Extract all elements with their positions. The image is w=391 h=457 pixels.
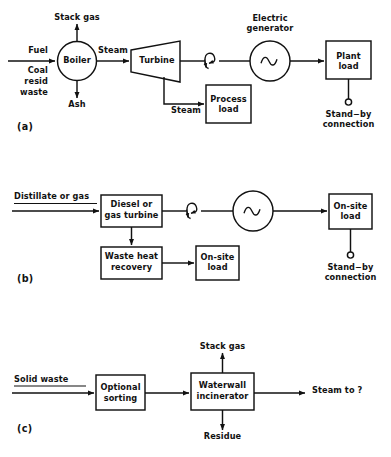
waste-heat-recovery-label-line-1: Waste heat: [105, 252, 158, 262]
optional-sorting-label-line-1: Optional: [100, 383, 140, 393]
waterwall-incinerator-label-line-1: Waterwall: [199, 381, 246, 391]
shaft-rotation-icon-b: [187, 203, 197, 218]
diesel-or-gas-turbine-label-line-2: gas turbine: [104, 211, 158, 221]
on-site-load-electric-label-line-2: load: [340, 212, 360, 222]
turbine-label: Turbine: [139, 56, 174, 66]
panel-tag-a: (a): [17, 122, 33, 132]
ash-label: Ash: [68, 100, 85, 110]
steam-to-turbine-label: Steam: [98, 46, 128, 56]
stand-by-connection-b: [347, 229, 353, 258]
steam-to-process-path: [164, 77, 204, 104]
plant-load-label-line-2: load: [338, 62, 358, 72]
stand-by-connection-b-label-line-2: connection: [325, 273, 377, 283]
fuel-detail-line-2: resid: [24, 77, 48, 87]
process-load-label-line-2: load: [218, 105, 238, 115]
panel-tag-c: (c): [17, 424, 32, 434]
figure-canvas: Stack gas Ash Fuel Coal resid waste Boil…: [0, 0, 391, 457]
fuel-input-label: Fuel: [28, 46, 48, 56]
shaft-rotation-icon: [205, 53, 215, 68]
solid-waste-label: Solid waste: [14, 375, 68, 385]
stack-gas-label: Stack gas: [54, 13, 100, 23]
electric-generator-node: [250, 41, 290, 81]
steam-output-label-c: Steam to ?: [312, 386, 362, 396]
boiler-label: Boiler: [63, 56, 91, 66]
residue-label-c: Residue: [204, 432, 241, 442]
electric-generator-node-b: [233, 191, 273, 231]
stand-by-connection-label-line-2: connection: [323, 120, 375, 130]
waterwall-incinerator-label-line-2: incinerator: [197, 392, 249, 402]
distillate-or-gas-label: Distillate or gas: [14, 192, 89, 202]
stack-gas-label-c: Stack gas: [200, 342, 246, 352]
panel-tag-b: (b): [17, 274, 34, 284]
diesel-or-gas-turbine-label-line-1: Diesel or: [111, 200, 153, 210]
steam-to-process-label: Steam: [171, 106, 201, 116]
fuel-detail-line-3: waste: [20, 88, 48, 98]
fuel-detail-line-1: Coal: [28, 66, 48, 76]
electric-generator-caption-line-2: generator: [247, 24, 294, 34]
optional-sorting-label-line-2: sorting: [104, 394, 138, 404]
on-site-load-thermal-label-line-2: load: [207, 263, 227, 273]
stand-by-connection-a: [345, 79, 351, 105]
waste-heat-recovery-label-line-2: recovery: [111, 263, 152, 273]
